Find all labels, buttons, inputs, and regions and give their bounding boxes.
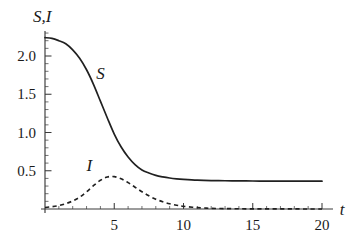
chart-figure: 5101520 0.51.01.52.0 SI S,I t	[0, 0, 359, 246]
svg-text:10: 10	[176, 217, 191, 233]
curve-annotations: SI	[85, 64, 105, 175]
svg-text:5: 5	[111, 217, 119, 233]
svg-text:1.0: 1.0	[17, 125, 36, 141]
svg-text:20: 20	[315, 217, 330, 233]
y-axis-major-ticks	[45, 56, 52, 171]
x-axis-label: t	[340, 200, 346, 219]
svg-text:2.0: 2.0	[17, 48, 36, 64]
sir-line-chart: 5101520 0.51.01.52.0 SI S,I t	[0, 0, 359, 246]
x-axis-tick-labels: 5101520	[111, 217, 330, 233]
y-axis-label: S,I	[33, 7, 53, 26]
y-axis-tick-labels: 0.51.01.52.0	[17, 48, 36, 179]
svg-text:15: 15	[245, 217, 260, 233]
svg-text:0.5: 0.5	[17, 163, 36, 179]
svg-text:I: I	[85, 156, 93, 175]
svg-text:S: S	[96, 64, 105, 83]
svg-text:1.5: 1.5	[17, 86, 36, 102]
